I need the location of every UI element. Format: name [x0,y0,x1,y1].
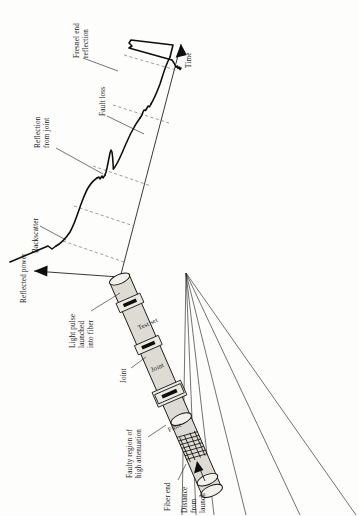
reflected-power-axis [34,266,119,278]
otdr-diagram-figure: Fresnel end reflection Fault loss Reflec… [0,0,359,516]
label-joint: Joint [120,368,128,383]
label-joint-text: Joint [120,368,128,383]
label-backscatter-text: Backscatter [32,217,40,253]
label-fault-loss: Fault loss [99,87,107,116]
label-reflected-power-axis: Reflected power [20,253,28,303]
label-launch-line1: Light pulse [69,314,77,348]
label-launch-line3: into fiber [87,319,95,348]
label-distance-line1: Distance [181,487,189,513]
label-reflection-from-joint: Reflection from joint [34,116,51,148]
label-time-axis: Time [185,52,193,68]
time-axis [120,44,187,278]
label-fiber-end: Fiber end [164,482,172,511]
label-light-pulse-launched: Light pulse launched into fiber [69,314,95,348]
label-launch-line2: launched [78,321,86,348]
label-fiber-end-text: Fiber end [164,482,172,511]
label-faulty-line2: high attenuation [135,429,143,478]
label-faulty-region: Faulty region of high attenuation [126,429,143,478]
label-time-text: Time [185,52,193,68]
label-joint-refl-line2: from joint [43,118,51,148]
label-faulty-line1: Faulty region of [126,429,134,478]
label-fresnel-end-reflection: Fresnel end reflection [73,23,90,58]
label-backscatter: Backscatter [32,217,40,253]
fiber-cable [104,269,228,502]
otdr-diagram-canvas: Fresnel end reflection Fault loss Reflec… [0,0,359,516]
leader-lines [40,58,186,480]
label-joint-refl-line1: Reflection [34,116,42,148]
label-fresnel-line2: reflection [82,29,90,58]
label-fresnel-line1: Fresnel end [73,23,81,58]
label-reflected-power-line1: Reflected power [20,253,28,303]
label-fault-loss-text: Fault loss [99,87,107,116]
label-distance-line2: from [190,498,198,513]
label-distance-line3: launch [199,493,207,513]
